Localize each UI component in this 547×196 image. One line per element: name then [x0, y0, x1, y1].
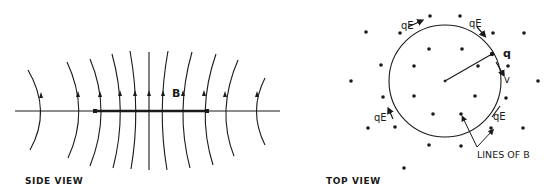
- field-dot: [458, 14, 462, 18]
- field-dot: [476, 64, 480, 68]
- pointer-line: [463, 118, 477, 147]
- field-dot: [489, 126, 493, 130]
- field-dot: [412, 94, 416, 98]
- force-arrow-left: [389, 110, 393, 119]
- arrow-up-icon: [147, 90, 151, 96]
- field-dot: [504, 96, 508, 100]
- field-dot: [506, 64, 510, 68]
- field-dot: [459, 112, 463, 116]
- field-dot: [460, 47, 464, 51]
- top-view-caption: TOP VIEW: [326, 176, 381, 186]
- force-label-right: qE: [493, 111, 506, 122]
- field-dot: [379, 63, 383, 67]
- field-dot: [349, 79, 353, 83]
- field-dot: [381, 95, 385, 99]
- field-label-b: B: [172, 87, 180, 100]
- charge-label-q: q: [503, 47, 511, 60]
- field-line: [28, 70, 41, 150]
- field-dot: [521, 126, 525, 130]
- field-dot: [427, 47, 431, 51]
- side-view: [15, 51, 280, 170]
- velocity-arrow: [496, 62, 503, 74]
- top-view: [389, 21, 503, 147]
- disk-end-left: [93, 109, 97, 113]
- field-dot: [366, 126, 370, 130]
- field-dot: [427, 143, 431, 147]
- field-dot: [473, 94, 477, 98]
- lines-of-b-label: LINES OF B: [477, 149, 530, 160]
- field-dot: [402, 166, 406, 170]
- radius-line: [445, 54, 492, 81]
- field-dot: [536, 79, 540, 83]
- force-label-left: qE: [374, 112, 387, 123]
- field-dot: [431, 112, 435, 116]
- field-dot: [398, 31, 402, 35]
- field-dots: [349, 14, 540, 170]
- field-line: [226, 60, 238, 156]
- arrow-up-icon: [161, 90, 165, 96]
- velocity-label-v: v: [504, 74, 510, 85]
- arrow-up-icon: [202, 90, 206, 96]
- force-label-top-right: qE: [469, 18, 482, 29]
- field-dot: [393, 125, 397, 129]
- field-dot: [364, 30, 368, 34]
- field-line: [67, 62, 79, 158]
- field-dot: [522, 31, 526, 35]
- diagram-canvas: B SIDE VIEW: [0, 0, 547, 196]
- arrow-up-icon: [98, 91, 102, 97]
- side-view-caption: SIDE VIEW: [25, 176, 83, 186]
- center-point: [444, 80, 446, 82]
- arrow-up-icon: [223, 91, 227, 97]
- arrow-up-icon: [133, 90, 137, 96]
- pointer-line: [477, 131, 492, 147]
- force-label-top-left: qE: [401, 20, 414, 31]
- field-dot: [428, 14, 432, 18]
- field-dot: [491, 31, 495, 35]
- field-dot: [459, 144, 463, 148]
- charge-q: [490, 52, 494, 56]
- field-dot: [412, 64, 416, 68]
- arrow-up-icon: [39, 92, 43, 98]
